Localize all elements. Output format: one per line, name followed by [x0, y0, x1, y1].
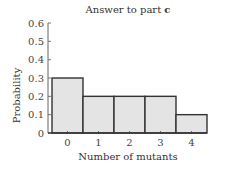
y-tick-label: 0.6	[28, 18, 44, 29]
x-tick-label: 4	[188, 137, 194, 148]
bar-chart: 0123400.10.20.30.40.50.6	[0, 0, 225, 178]
x-tick-label: 1	[95, 137, 101, 148]
y-tick-label: 0.3	[28, 73, 44, 84]
x-tick-label: 2	[126, 137, 132, 148]
bar-4	[176, 115, 207, 133]
x-tick-label: 0	[64, 137, 70, 148]
y-tick-label: 0.2	[28, 91, 44, 102]
bar-2	[114, 96, 145, 133]
y-tick-label: 0.5	[28, 36, 44, 47]
bar-3	[145, 96, 176, 133]
bar-1	[83, 96, 114, 133]
y-tick-label: 0.4	[28, 54, 44, 65]
bar-0	[52, 78, 83, 133]
x-tick-label: 3	[157, 137, 163, 148]
y-tick-label: 0	[38, 128, 44, 139]
y-tick-label: 0.1	[28, 109, 44, 120]
